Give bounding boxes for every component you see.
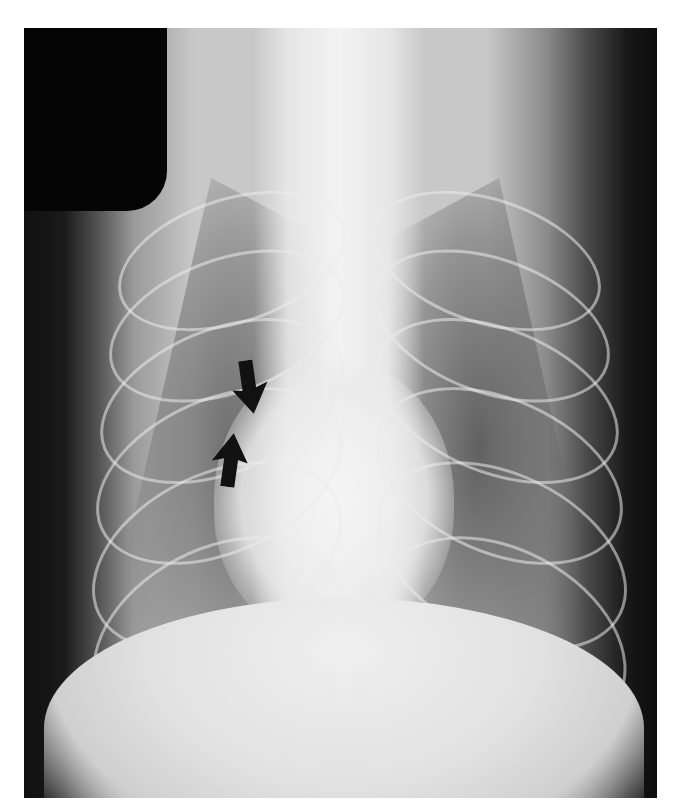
arrow-down-icon: [226, 357, 273, 416]
film-corner-marker: [24, 28, 167, 211]
radiograph: [24, 28, 657, 798]
arrow-up-icon: [206, 430, 253, 489]
